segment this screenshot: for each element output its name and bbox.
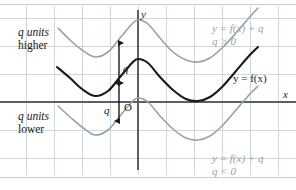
annotation-q-units-higher: q units higher (18, 26, 49, 52)
x-axis-label: x (283, 88, 288, 101)
curve-main-fx (57, 47, 258, 101)
annotation-higher-line2: higher (18, 39, 47, 51)
arrow-label-q-upper: q (123, 62, 129, 75)
vertical-translation-figure: q units higher q units lower y = f(x) + … (0, 0, 296, 190)
curve-label-bottom-condition: q < 0 (212, 165, 236, 177)
y-axis-label: y (141, 8, 146, 21)
origin-label: O (124, 101, 132, 114)
curve-label-translated-down: y = f(x) + q q < 0 (212, 152, 264, 177)
curve-label-main: y = f(x) (233, 72, 267, 85)
curve-label-top-equation: y = f(x) + q (212, 22, 264, 34)
curve-label-translated-up: y = f(x) + q q > 0 (212, 22, 264, 47)
curve-label-top-condition: q > 0 (212, 35, 236, 47)
annotation-lower-line2: lower (18, 123, 44, 135)
curve-label-bottom-equation: y = f(x) + q (212, 152, 264, 164)
annotation-q-units-lower: q units lower (18, 110, 49, 136)
arrow-label-q-lower: q (104, 104, 110, 117)
annotation-lower-line1: q units (18, 110, 49, 122)
annotation-higher-line1: q units (18, 26, 49, 38)
